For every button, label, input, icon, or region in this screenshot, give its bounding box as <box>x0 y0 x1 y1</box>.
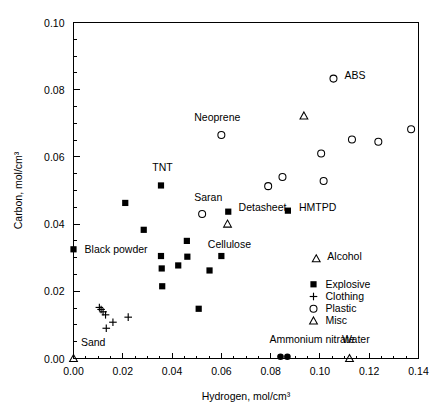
data-point-plastic <box>348 136 355 143</box>
x-tick-label: 0.08 <box>260 365 281 377</box>
data-point-explosive <box>175 262 181 268</box>
data-point-explosive <box>206 267 212 273</box>
point-label: Detasheet <box>239 201 287 213</box>
data-point-plastic <box>330 75 337 82</box>
data-point-explosive <box>159 265 165 271</box>
data-point-plastic <box>320 178 327 185</box>
point-label: Black powder <box>85 243 149 255</box>
point-label: Sand <box>81 336 106 348</box>
legend-label-explosive: Explosive <box>326 278 371 290</box>
y-tick-label: 0.00 <box>44 353 65 365</box>
data-point-explosive <box>158 253 164 259</box>
data-point-misc <box>300 112 308 119</box>
data-point-explosive <box>184 238 190 244</box>
data-point-misc <box>224 220 232 227</box>
data-point-explosive <box>159 283 165 289</box>
data-point-misc <box>312 255 320 262</box>
plot-frame <box>74 23 419 359</box>
point-label: TNT <box>152 161 173 173</box>
data-point-explosive <box>196 306 202 312</box>
data-point-explosive <box>277 354 284 361</box>
y-tick-label: 0.04 <box>44 218 65 230</box>
y-tick-label: 0.10 <box>44 17 65 29</box>
legend-label-plastic: Plastic <box>326 302 357 314</box>
legend-marker-plastic <box>310 305 317 312</box>
y-tick-label: 0.08 <box>44 84 65 96</box>
point-label: ABS <box>345 69 366 81</box>
plot-canvas: 0.000.020.040.060.080.100.120.140.000.02… <box>0 0 443 416</box>
x-tick-label: 0.02 <box>113 365 134 377</box>
data-point-plastic <box>199 211 206 218</box>
y-tick-label: 0.02 <box>44 285 65 297</box>
point-label: HMTPD <box>299 201 337 213</box>
x-tick-label: 0.12 <box>359 365 380 377</box>
point-label: Saran <box>194 191 222 203</box>
y-axis-title: Carbon, mol/cm³ <box>12 151 24 229</box>
data-point-explosive <box>225 209 231 215</box>
x-tick-label: 0.04 <box>162 365 183 377</box>
data-point-explosive <box>122 200 128 206</box>
legend-label-clothing: Clothing <box>326 290 365 302</box>
data-point-plastic <box>318 150 325 157</box>
legend-label-misc: Misc <box>326 314 348 326</box>
legend-marker-explosive <box>310 281 316 287</box>
data-point-plastic <box>265 183 272 190</box>
data-point-explosive <box>184 254 190 260</box>
x-tick-label: 0.14 <box>408 365 429 377</box>
y-tick-label: 0.06 <box>44 151 65 163</box>
legend-marker-misc <box>310 317 318 324</box>
data-point-plastic <box>218 132 225 139</box>
data-point-explosive <box>141 227 147 233</box>
point-label: Neoprene <box>194 111 240 123</box>
x-tick-label: 0.00 <box>63 365 84 377</box>
data-point-plastic <box>375 138 382 145</box>
point-label: Cellulose <box>208 238 251 250</box>
data-point-plastic <box>279 174 286 181</box>
point-label: Water <box>342 333 370 345</box>
data-point-explosive <box>284 354 291 361</box>
x-tick-label: 0.06 <box>211 365 232 377</box>
data-point-explosive <box>158 182 164 188</box>
data-point-explosive <box>218 253 224 259</box>
data-point-explosive <box>70 246 76 252</box>
point-label: Alcohol <box>327 250 361 262</box>
data-point-plastic <box>408 126 415 133</box>
x-axis-title: Hydrogen, mol/cm³ <box>202 390 291 402</box>
scatter-plot-figure: 0.000.020.040.060.080.100.120.140.000.02… <box>0 0 443 416</box>
x-tick-label: 0.10 <box>310 365 331 377</box>
